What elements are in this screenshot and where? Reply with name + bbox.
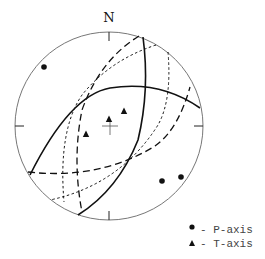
t-axis-points <box>83 108 127 138</box>
legend-t-axis-label: - T-axis <box>200 238 253 250</box>
stereonet-diagram: N - P-axis - T-axis <box>0 0 265 259</box>
t-axis-point <box>106 116 112 123</box>
legend-p-axis-icon <box>189 224 194 229</box>
legend: - P-axis - T-axis <box>189 224 253 250</box>
t-axis-point <box>83 131 89 138</box>
p-axis-point <box>178 174 184 180</box>
great-circle-dashed <box>28 87 190 174</box>
center-mark <box>102 120 118 135</box>
p-axis-point <box>159 178 165 184</box>
p-axis-points <box>41 64 184 184</box>
p-axis-point <box>41 64 47 70</box>
t-axis-point <box>121 108 127 115</box>
north-label: N <box>103 10 114 25</box>
legend-p-axis-label: - P-axis <box>200 224 253 236</box>
legend-t-axis-icon <box>189 240 195 246</box>
great-circle-dashed <box>77 36 139 212</box>
great-circle-solid <box>30 86 200 175</box>
great-circles <box>28 36 200 215</box>
